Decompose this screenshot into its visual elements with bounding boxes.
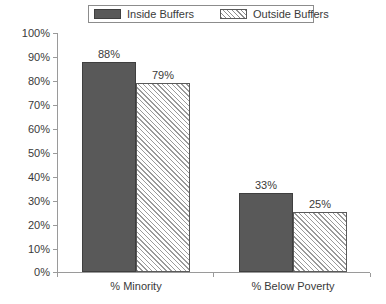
y-axis-label-80: 80% (28, 76, 50, 87)
y-tick-mark-10 (53, 249, 57, 250)
y-axis-label-20: 20% (28, 220, 50, 231)
chart-legend: Inside Buffers Outside Buffers (88, 5, 314, 23)
y-tick-mark-30 (53, 201, 57, 202)
bar-value-outside-buffers-minority: 79% (136, 69, 190, 81)
y-tick-mark-50 (53, 153, 57, 154)
legend-label-inside-buffers: Inside Buffers (127, 8, 194, 20)
y-axis-label-90: 90% (28, 52, 50, 63)
legend-label-outside-buffers: Outside Buffers (253, 8, 329, 20)
bar-inside-buffers-minority (82, 62, 136, 272)
bar-outside-buffers-below-poverty (293, 212, 347, 272)
legend-entry-outside-buffers: Outside Buffers (220, 6, 329, 22)
bar-value-inside-buffers-below-poverty: 33% (239, 179, 293, 191)
y-axis-label-50: 50% (28, 148, 50, 159)
y-axis-label-30: 30% (28, 196, 50, 207)
bar-value-outside-buffers-below-poverty: 25% (293, 198, 347, 210)
y-tick-mark-40 (53, 177, 57, 178)
y-axis-label-10: 10% (28, 244, 50, 255)
x-tick-mark-right (370, 273, 371, 277)
y-axis-line (57, 33, 58, 273)
x-tick-mark-left (57, 273, 58, 277)
bar-inside-buffers-below-poverty (239, 193, 293, 272)
bar-outside-buffers-minority (136, 83, 190, 272)
bar-value-inside-buffers-minority: 88% (82, 48, 136, 60)
y-tick-mark-70 (53, 105, 57, 106)
bar-chart: Inside Buffers Outside Buffers 100% 90% … (0, 0, 386, 304)
x-tick-mark-middle (213, 273, 214, 277)
legend-entry-inside-buffers: Inside Buffers (94, 6, 194, 22)
legend-swatch-hatch-icon (220, 9, 247, 19)
x-axis-category-label-below-poverty: % Below Poverty (239, 280, 347, 292)
y-axis-label-0: 0% (34, 267, 50, 278)
y-tick-mark-100 (53, 33, 57, 34)
legend-swatch-solid-icon (94, 9, 121, 19)
y-axis-label-70: 70% (28, 100, 50, 111)
y-tick-mark-90 (53, 57, 57, 58)
y-tick-mark-60 (53, 129, 57, 130)
y-axis-label-100: 100% (22, 28, 50, 39)
y-axis-label-40: 40% (28, 172, 50, 183)
x-axis-category-label-minority: % Minority (82, 280, 190, 292)
y-axis-label-60: 60% (28, 124, 50, 135)
y-tick-mark-80 (53, 81, 57, 82)
y-tick-mark-20 (53, 225, 57, 226)
